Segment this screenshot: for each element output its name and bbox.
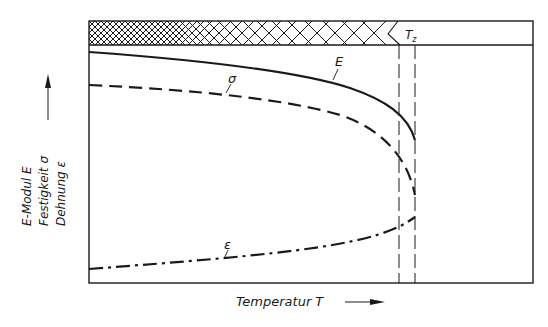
y-label-line-3: Dehnung ε bbox=[54, 161, 68, 226]
curve-e-label: E bbox=[335, 54, 344, 69]
y-axis-arrow-icon bbox=[45, 74, 51, 120]
y-label-line-1: E-Modul E bbox=[20, 166, 34, 226]
x-axis-arrow-icon bbox=[345, 299, 385, 305]
curve-epsilon-label: ε bbox=[224, 237, 231, 252]
curve-sigma-label: σ bbox=[228, 71, 237, 86]
plot-frame bbox=[89, 21, 533, 283]
property-diagram: Tz E σ ε E-Modul E Festigkeit σ Dehnung … bbox=[0, 0, 548, 327]
curve-strength-sigma bbox=[89, 85, 415, 195]
e-leader bbox=[333, 69, 338, 80]
y-axis-label: E-Modul E Festigkeit σ Dehnung ε bbox=[20, 156, 68, 226]
crosshatch-band bbox=[89, 21, 386, 45]
y-label-line-2: Festigkeit σ bbox=[37, 156, 51, 226]
band-boundary bbox=[388, 21, 400, 45]
tz-label: Tz bbox=[405, 28, 417, 44]
curve-elongation-epsilon bbox=[89, 217, 415, 269]
x-axis-label: Temperatur T bbox=[236, 294, 324, 309]
